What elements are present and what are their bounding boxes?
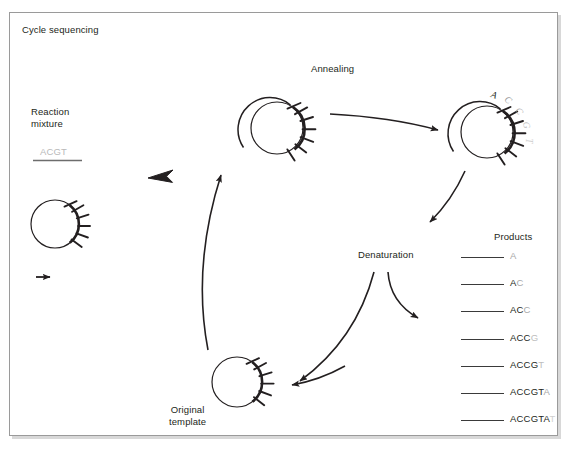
product-fragment-line — [461, 284, 504, 285]
product-fragment-line — [461, 420, 504, 421]
product-row: ACCGT — [461, 357, 573, 384]
product-row: ACCGTA — [461, 384, 573, 411]
product-sequence-body: ACCGT — [510, 386, 544, 397]
product-sequence-body: AC — [510, 304, 524, 315]
template-circle-annealing — [238, 98, 315, 161]
original-template-line-1: Original — [171, 404, 205, 415]
curved-down-left-arrow-icon — [430, 171, 465, 222]
annealing-label: Annealing — [311, 63, 354, 75]
product-row: ACCGTAT — [461, 411, 573, 438]
product-sequence: ACCGTA — [510, 386, 550, 397]
strand-base-4: T — [524, 138, 534, 143]
page-title: Cycle sequencing — [22, 24, 99, 36]
product-fragment-line — [461, 366, 504, 367]
product-sequence-body: ACCGTA — [510, 413, 549, 424]
thick-left-arrow-icon — [148, 170, 173, 182]
template-circle-reaction-mixture — [31, 200, 90, 248]
product-sequence-body: ACCG — [510, 359, 538, 370]
curved-down-left-long-arrow-icon — [300, 272, 374, 381]
product-sequence: ACC — [510, 304, 531, 315]
products-list: AACACCACCGACCGTACCGTAACCGTAT — [461, 248, 573, 438]
template-circle-original — [212, 357, 274, 407]
product-terminator-base: C — [524, 304, 531, 315]
product-row: AC — [461, 275, 573, 302]
product-sequence: ACCGT — [510, 359, 544, 370]
curved-left-arrow-icon — [292, 366, 345, 385]
product-row: ACCG — [461, 330, 573, 357]
product-sequence-body: ACC — [510, 332, 531, 343]
product-fragment-line — [461, 257, 504, 258]
curved-up-right-arrow-icon — [202, 175, 221, 350]
product-fragment-line — [461, 393, 504, 394]
original-template-label: Originaltemplate — [169, 404, 206, 427]
original-template-line-2: template — [169, 416, 206, 427]
product-terminator-base: C — [517, 277, 524, 288]
curved-right-arrow-icon — [330, 114, 438, 130]
product-sequence: ACCGTAT — [510, 413, 555, 424]
curved-down-right-arrow-icon — [388, 272, 418, 318]
reaction-mixture-label: Reactionmixture — [31, 106, 69, 129]
product-terminator-base: A — [544, 386, 551, 397]
denaturation-label: Denaturation — [358, 249, 414, 261]
cycle-sequencing-figure: Cycle sequencing Annealing Denaturation … — [0, 0, 574, 456]
product-terminator-base: A — [510, 250, 517, 261]
product-fragment-line — [461, 339, 504, 340]
reaction-mixture-line-2: mixture — [31, 118, 63, 129]
product-terminator-base: T — [538, 359, 544, 370]
product-sequence: ACCG — [510, 332, 538, 343]
product-terminator-base: G — [531, 332, 539, 343]
product-sequence: AC — [510, 277, 524, 288]
products-label: Products — [494, 231, 532, 243]
product-fragment-line — [461, 311, 504, 312]
product-row: A — [461, 248, 573, 275]
product-terminator-base: T — [549, 413, 555, 424]
reaction-mixture-line-1: Reaction — [31, 106, 69, 117]
nucleotide-pool-label: ACGT — [40, 146, 67, 158]
product-row: ACC — [461, 302, 573, 329]
product-sequence: A — [510, 250, 517, 261]
